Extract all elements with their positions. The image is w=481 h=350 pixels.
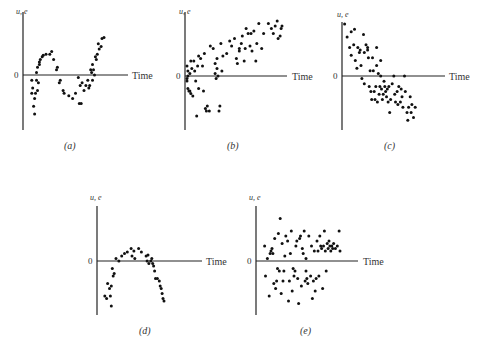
- panel-b-x-label: Time: [292, 71, 313, 82]
- data-point: [201, 65, 204, 68]
- data-point: [33, 113, 36, 116]
- data-point: [81, 81, 84, 84]
- data-point: [37, 81, 40, 84]
- data-point: [132, 250, 135, 253]
- data-point: [219, 42, 222, 45]
- data-point: [36, 89, 39, 92]
- data-point: [305, 257, 308, 260]
- data-point: [220, 70, 223, 73]
- data-point: [321, 287, 324, 290]
- data-point: [336, 245, 339, 248]
- data-point: [374, 85, 377, 88]
- data-point: [186, 75, 189, 78]
- data-point: [133, 257, 136, 260]
- data-point: [92, 68, 95, 71]
- data-point: [83, 89, 86, 92]
- data-point: [58, 81, 61, 84]
- panel-a-y-label: u, e: [16, 7, 28, 16]
- data-point: [189, 92, 192, 95]
- data-point: [399, 101, 402, 104]
- data-point: [322, 245, 325, 248]
- data-point: [243, 60, 246, 63]
- data-point: [110, 305, 113, 308]
- panel-e-caption: (e): [300, 325, 312, 337]
- data-point: [56, 66, 59, 69]
- data-point: [38, 63, 41, 66]
- data-point: [311, 297, 314, 300]
- data-point: [147, 262, 150, 265]
- panel-c-zero-label: 0: [333, 71, 338, 81]
- data-point: [360, 77, 363, 80]
- data-point: [286, 240, 289, 243]
- data-point: [350, 30, 353, 33]
- data-point: [249, 45, 252, 48]
- data-point: [288, 280, 291, 283]
- data-point: [263, 245, 266, 248]
- panel-d-zero-label: 0: [88, 256, 93, 266]
- data-point: [88, 84, 91, 87]
- data-point: [109, 295, 112, 298]
- data-point: [348, 46, 351, 49]
- data-point: [328, 240, 331, 243]
- data-point: [310, 245, 313, 248]
- data-point: [218, 110, 221, 113]
- data-point: [324, 250, 327, 253]
- data-point: [277, 37, 280, 40]
- data-point: [359, 49, 362, 52]
- data-point: [244, 47, 247, 50]
- panel-d-y-label: u, e: [90, 193, 102, 202]
- data-point: [295, 240, 298, 243]
- data-point: [123, 252, 126, 255]
- data-point: [318, 235, 321, 238]
- data-point: [77, 76, 80, 79]
- data-point: [115, 257, 118, 260]
- data-point: [320, 247, 323, 250]
- panel-e-y-label: u, e: [249, 193, 261, 202]
- data-point: [94, 55, 97, 58]
- data-point: [275, 280, 278, 283]
- data-point: [214, 72, 217, 75]
- data-point: [105, 297, 108, 300]
- data-point: [278, 270, 281, 273]
- data-point: [393, 93, 396, 96]
- panel-a-points: [30, 36, 105, 115]
- data-point: [353, 28, 356, 31]
- panel-c: u, e 0 Time (c): [333, 10, 470, 152]
- data-point: [202, 90, 205, 93]
- data-point: [113, 272, 116, 275]
- data-point: [106, 282, 109, 285]
- data-point: [188, 72, 191, 75]
- panel-a-caption: (a): [64, 140, 76, 152]
- data-point: [305, 270, 308, 273]
- data-point: [252, 30, 255, 33]
- data-point: [45, 53, 48, 56]
- data-point: [301, 247, 304, 250]
- panel-a: u, e 0 Time (a): [14, 7, 153, 152]
- data-point: [294, 270, 297, 273]
- data-point: [195, 115, 198, 118]
- data-point: [117, 260, 120, 263]
- data-point: [406, 111, 409, 114]
- data-point: [392, 75, 395, 78]
- data-point: [230, 45, 233, 48]
- data-point: [377, 72, 380, 75]
- data-point: [391, 82, 394, 85]
- data-point: [30, 92, 33, 95]
- data-point: [383, 85, 386, 88]
- data-point: [87, 87, 90, 90]
- data-point: [356, 46, 359, 49]
- data-point: [59, 79, 62, 82]
- data-point: [257, 22, 260, 25]
- data-point: [332, 242, 335, 245]
- data-point: [62, 89, 65, 92]
- data-point: [97, 42, 100, 45]
- data-point: [387, 101, 390, 104]
- data-point: [329, 250, 332, 253]
- data-point: [372, 69, 375, 72]
- data-point: [52, 58, 55, 61]
- data-point: [160, 287, 163, 290]
- data-point: [304, 280, 307, 283]
- data-point: [283, 255, 286, 258]
- panel-c-points: [343, 23, 417, 122]
- data-point: [80, 102, 83, 105]
